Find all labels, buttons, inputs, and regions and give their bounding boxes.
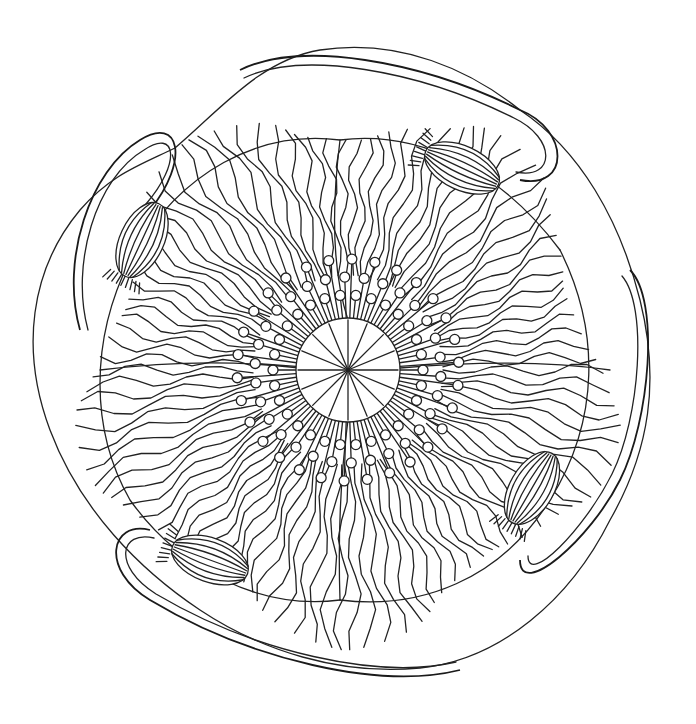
poppy-illustration [0, 0, 696, 724]
seed-head [296, 318, 400, 422]
